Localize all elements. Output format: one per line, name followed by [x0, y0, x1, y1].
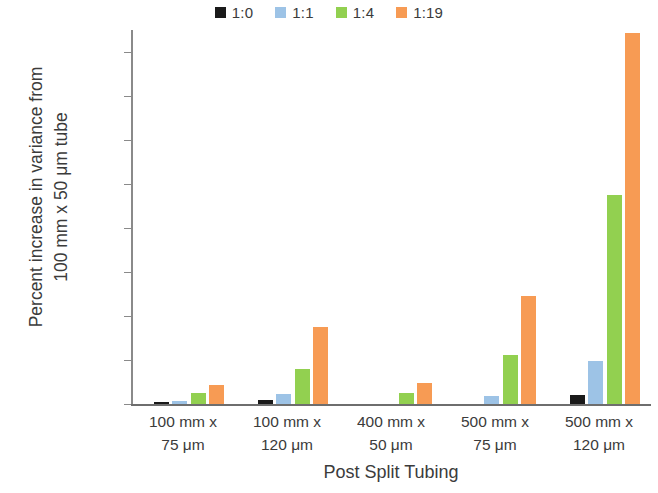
bar-chart: 1:01:11:41:19 Percent increase in varian…: [0, 0, 658, 493]
y-axis-tick: [124, 316, 131, 317]
legend-swatch-icon: [336, 7, 347, 18]
bar-group: [258, 30, 329, 404]
y-axis-tick: [124, 140, 131, 141]
bar-1-4[interactable]: [295, 369, 310, 404]
bar-1-1[interactable]: [276, 394, 291, 404]
y-axis-title-line-1: Percent increase in variance from: [24, 17, 49, 377]
bars-layer: [131, 30, 651, 404]
legend-swatch-icon: [275, 7, 286, 18]
bar-1-4[interactable]: [503, 355, 518, 405]
bar-1-1[interactable]: [484, 396, 499, 404]
y-axis-tick: [124, 360, 131, 361]
x-axis-tick-label-line: 50 μm: [339, 433, 443, 456]
bar-1-4[interactable]: [607, 195, 622, 404]
x-axis-tick-label-line: 75 μm: [443, 433, 547, 456]
bar-group: [154, 30, 225, 404]
legend-label: 1:1: [292, 4, 313, 21]
x-axis-tick-labels: 100 mm x75 μm100 mm x120 μm400 mm x50 μm…: [131, 410, 651, 462]
y-axis-title-line-2: 100 mm x 50 μm tube: [49, 17, 74, 377]
bar-1-4[interactable]: [399, 393, 414, 404]
bar-1-0[interactable]: [570, 395, 585, 404]
x-axis-tick-label-line: 100 mm x: [235, 410, 339, 433]
bar-group: [466, 30, 537, 404]
legend-swatch-icon: [396, 7, 407, 18]
legend-label: 1:4: [353, 4, 374, 21]
bar-1-1[interactable]: [588, 361, 603, 404]
x-axis-title: Post Split Tubing: [131, 462, 651, 483]
legend-swatch-icon: [215, 7, 226, 18]
bar-group: [570, 30, 641, 404]
bar-1-0[interactable]: [258, 400, 273, 404]
bar-1-19[interactable]: [625, 33, 640, 404]
bar-1-1[interactable]: [172, 401, 187, 404]
x-axis-tick-label-line: 75 μm: [131, 433, 235, 456]
x-axis-tick-label-line: 400 mm x: [339, 410, 443, 433]
x-axis-tick-label: 400 mm x50 μm: [339, 410, 443, 456]
y-axis-tick: [124, 96, 131, 97]
x-axis-tick-label: 500 mm x120 μm: [547, 410, 651, 456]
bar-1-0[interactable]: [154, 402, 169, 404]
bar-1-19[interactable]: [417, 383, 432, 404]
y-axis-tick: [124, 52, 131, 53]
x-axis-tick-label-line: 120 μm: [235, 433, 339, 456]
y-axis-tick: [124, 404, 131, 405]
x-axis-line: [131, 404, 651, 406]
y-axis-tick: [124, 184, 131, 185]
legend-item-1-1[interactable]: 1:1: [275, 4, 313, 21]
x-axis-tick-label-line: 500 mm x: [443, 410, 547, 433]
legend-label: 1:0: [232, 4, 253, 21]
y-axis-tick: [124, 272, 131, 273]
x-axis-tick-label-line: 120 μm: [547, 433, 651, 456]
legend-item-1-0[interactable]: 1:0: [215, 4, 253, 21]
plot-area: 02004006008001000120014001600: [131, 30, 651, 404]
legend-item-1-19[interactable]: 1:19: [396, 4, 443, 21]
bar-group: [362, 30, 433, 404]
bar-1-19[interactable]: [313, 327, 328, 404]
chart-legend: 1:01:11:41:19: [0, 4, 658, 21]
y-axis-tick: [124, 228, 131, 229]
x-axis-tick-label: 100 mm x75 μm: [131, 410, 235, 456]
bar-1-19[interactable]: [521, 296, 536, 404]
legend-label: 1:19: [413, 4, 443, 21]
y-axis-title: Percent increase in variance from 100 mm…: [24, 17, 74, 377]
x-axis-tick-label: 100 mm x120 μm: [235, 410, 339, 456]
legend-item-1-4[interactable]: 1:4: [336, 4, 374, 21]
x-axis-tick-label-line: 500 mm x: [547, 410, 651, 433]
x-axis-tick-label-line: 100 mm x: [131, 410, 235, 433]
x-axis-tick-label: 500 mm x75 μm: [443, 410, 547, 456]
bar-1-4[interactable]: [191, 393, 206, 404]
bar-1-19[interactable]: [209, 385, 224, 404]
